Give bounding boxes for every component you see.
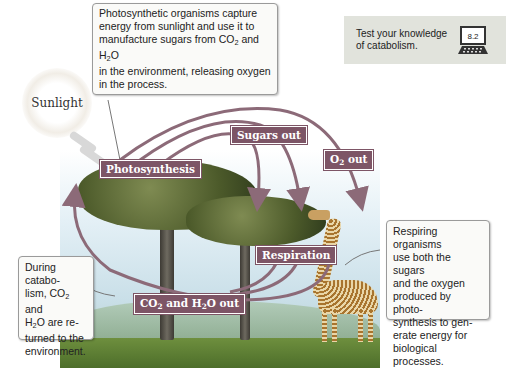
- callout-line: and the oxygen: [393, 277, 483, 290]
- callout-line: turned to the: [25, 332, 87, 345]
- catabolism-callout: During catabo- lism, CO2 and H2O are re-…: [18, 256, 94, 340]
- callout-line: in the environment, releasing oxygen: [99, 65, 271, 78]
- callout-line: synthesis to gen-: [393, 316, 483, 329]
- photosynthesis-label: Photosynthesis: [100, 160, 201, 178]
- laptop-icon[interactable]: 8.2: [456, 24, 490, 58]
- callout-line: biological processes.: [393, 342, 483, 368]
- test-knowledge-box[interactable]: Test your knowledge of catabolism. 8.2: [344, 16, 506, 64]
- o2-out-label: O2 out: [324, 150, 373, 170]
- co2-h2o-out-label: CO2 and H2O out: [134, 294, 245, 314]
- photosynthesis-callout: Photosynthetic organisms capture energy …: [92, 3, 278, 95]
- callout-line: manufacture sugars from CO2 and H2O: [99, 33, 271, 65]
- test-knowledge-text: Test your knowledge of catabolism.: [356, 28, 448, 52]
- section-badge: 8.2: [467, 32, 479, 41]
- callout-line: produced by photo-: [393, 290, 483, 316]
- respiration-label: Respiration: [256, 246, 336, 264]
- callout-line: erate energy for: [393, 329, 483, 342]
- callout-line: environment.: [25, 345, 87, 358]
- respiration-callout: Respiring organisms use both the sugars …: [386, 220, 490, 320]
- callout-line: use both the sugars: [393, 251, 483, 277]
- callout-line: lism, CO2 and: [25, 287, 87, 316]
- callout-line: in the process.: [99, 78, 271, 91]
- callout-line: During catabo-: [25, 261, 87, 287]
- callout-line: H2O are re-: [25, 316, 87, 332]
- callout-line: Photosynthetic organisms capture: [99, 7, 271, 20]
- sugars-out-label: Sugars out: [231, 126, 307, 144]
- callout-line: Respiring organisms: [393, 225, 483, 251]
- callout-line: energy from sunlight and use it to: [99, 20, 271, 33]
